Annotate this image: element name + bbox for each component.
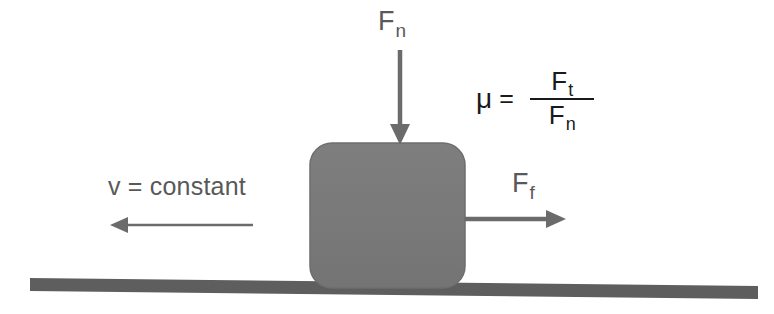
normal-force-symbol: F (378, 6, 395, 36)
numerator-symbol: F (551, 66, 567, 96)
friction-force-subscript: f (530, 182, 535, 203)
friction-force-label: Ff (512, 170, 534, 197)
velocity-arrow (110, 217, 253, 233)
friction-force-symbol: F (512, 168, 529, 198)
fraction-numerator: Ft (545, 68, 578, 95)
friction-coefficient-formula: μ = Ft Fn (476, 68, 594, 130)
equals-symbol: = (499, 86, 514, 111)
fraction-denominator: Fn (543, 102, 581, 129)
block (310, 143, 465, 288)
friction-force-arrow (465, 210, 566, 228)
velocity-label: v = constant (108, 174, 246, 199)
fraction: Ft Fn (530, 68, 594, 130)
numerator-subscript: t (568, 80, 573, 100)
normal-force-label: Fn (378, 8, 405, 35)
denominator-symbol: F (549, 100, 565, 130)
mu-symbol: μ (476, 85, 492, 113)
denominator-subscript: n (566, 114, 576, 134)
friction-diagram: Fn Ff v = constant μ = Ft Fn (0, 0, 774, 314)
normal-force-arrow (390, 50, 410, 145)
diagram-canvas (0, 0, 774, 314)
normal-force-subscript: n (396, 20, 407, 41)
